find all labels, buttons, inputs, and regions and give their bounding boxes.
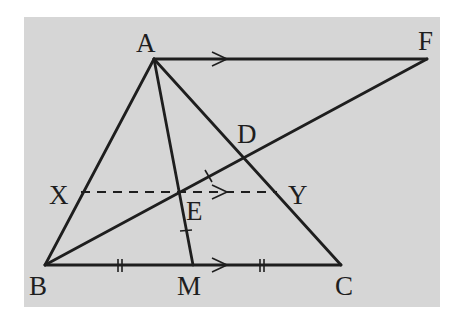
label-f: F [418, 26, 433, 56]
tick-mark-icon [180, 230, 192, 231]
label-m: M [177, 271, 201, 301]
label-x: X [49, 180, 69, 210]
geometry-diagram: A F B M C D E X Y [0, 0, 463, 325]
label-b: B [29, 271, 47, 301]
label-c: C [335, 271, 353, 301]
diagram-background [24, 17, 440, 307]
label-a: A [136, 28, 156, 58]
label-e: E [186, 196, 203, 226]
label-d: D [237, 119, 257, 149]
diagram-canvas: A F B M C D E X Y [0, 0, 463, 325]
label-y: Y [288, 180, 308, 210]
